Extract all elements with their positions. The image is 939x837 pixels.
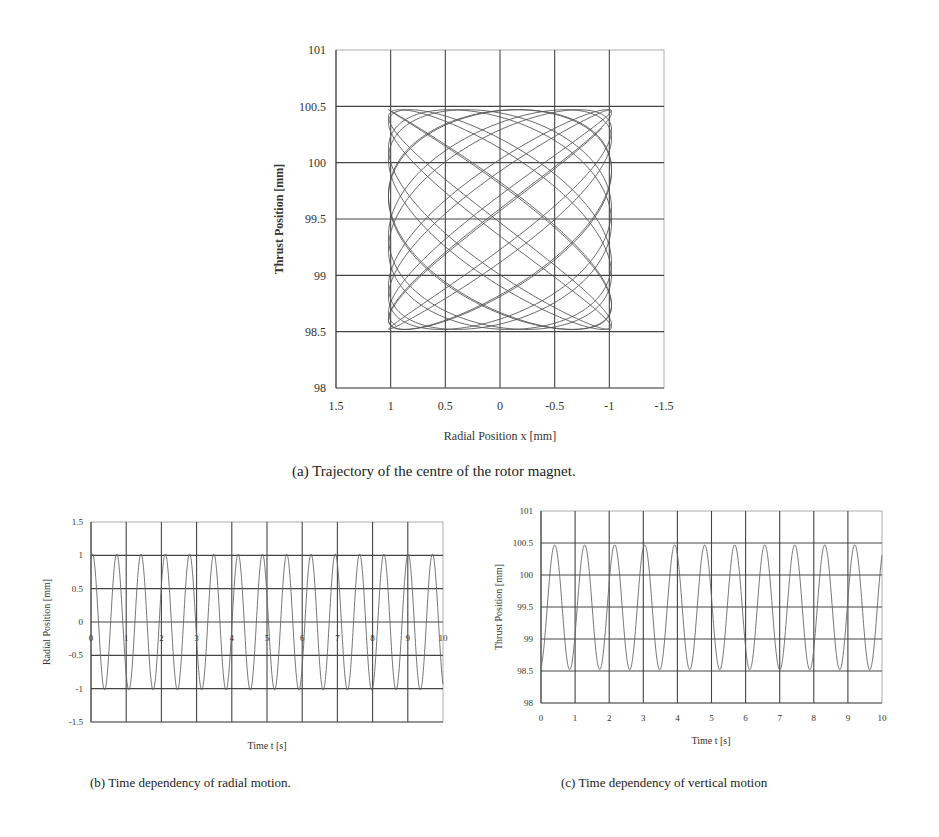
y-axis-label: Radial Position [mm]	[41, 579, 52, 665]
x-tick-label: 7	[777, 713, 782, 723]
x-tick-label: -1.5	[655, 399, 674, 413]
y-tick-label: 99.5	[517, 602, 533, 612]
y-tick-label: 101	[308, 43, 326, 57]
y-tick-label: -1.5	[69, 717, 84, 727]
grid-lines	[336, 50, 664, 388]
x-tick-label: 4	[230, 633, 235, 643]
x-tick-label: -0.5	[545, 399, 564, 413]
x-tick-label: 6	[743, 713, 748, 723]
x-tick-label: 5	[709, 713, 714, 723]
y-axis-label: Thrust Position [mm]	[272, 164, 286, 275]
grid-lines	[91, 522, 443, 722]
x-tick-label: 0	[497, 399, 503, 413]
x-tick-label: 3	[641, 713, 646, 723]
y-tick-label: 0.5	[72, 584, 84, 594]
x-tick-label: 1	[573, 713, 578, 723]
x-tick-label: 9	[846, 713, 851, 723]
caption-a: (a) Trajectory of the centre of the roto…	[292, 463, 576, 480]
x-tick-label: 10	[439, 633, 449, 643]
y-tick-label: 98	[314, 381, 326, 395]
x-tick-label: 8	[370, 633, 375, 643]
plot-area	[541, 511, 882, 703]
axis-ticks: 012345678910101100.510099.59998.598	[513, 506, 887, 723]
plot-area	[91, 522, 443, 722]
y-tick-label: 100	[520, 570, 534, 580]
y-tick-label: 1.5	[72, 517, 84, 527]
x-tick-label: 7	[335, 633, 340, 643]
x-tick-label: 9	[406, 633, 411, 643]
radial-position-line	[91, 554, 443, 690]
x-tick-label: 10	[878, 713, 888, 723]
y-tick-label: 100	[308, 156, 326, 170]
x-tick-label: 2	[159, 633, 164, 643]
x-tick-label: 6	[300, 633, 305, 643]
x-tick-label: 0.5	[438, 399, 453, 413]
x-tick-label: -1	[604, 399, 614, 413]
x-tick-label: 0	[89, 633, 94, 643]
caption-c: (c) Time dependency of vertical motion	[561, 775, 767, 791]
y-tick-label: 99.5	[305, 212, 326, 226]
x-tick-label: 3	[194, 633, 199, 643]
y-tick-label: 100.5	[299, 100, 326, 114]
x-axis-label: Radial Position x [mm]	[444, 429, 556, 443]
thrust-position-line	[541, 545, 882, 670]
x-tick-label: 5	[265, 633, 270, 643]
y-tick-label: 100.5	[513, 538, 534, 548]
y-tick-label: 98.5	[517, 666, 533, 676]
y-tick-label: 99	[524, 634, 534, 644]
x-tick-label: 1	[388, 399, 394, 413]
caption-b: (b) Time dependency of radial motion.	[90, 775, 291, 791]
trajectory-chart: 1.510.50-0.5-1-1.5101100.510099.59998.59…	[0, 0, 939, 500]
x-tick-label: 4	[675, 713, 680, 723]
x-tick-label: 0	[539, 713, 544, 723]
x-tick-label: 1.5	[329, 399, 344, 413]
x-axis-label: Time t [s]	[691, 735, 730, 746]
x-tick-label: 8	[812, 713, 817, 723]
y-tick-label: 1	[79, 550, 84, 560]
y-tick-label: 101	[520, 506, 534, 516]
y-tick-label: 99	[314, 269, 326, 283]
figure-a-trajectory: 1.510.50-0.5-1-1.5101100.510099.59998.59…	[0, 0, 939, 500]
y-tick-label: -0.5	[69, 650, 84, 660]
y-axis-label: Thrust Position [mm]	[493, 564, 504, 650]
grid-lines	[541, 511, 882, 703]
y-tick-label: -1	[76, 684, 84, 694]
y-tick-label: 98	[524, 698, 534, 708]
x-tick-label: 2	[607, 713, 612, 723]
axis-ticks: 0123456789101.510.50-0.5-1-1.5	[69, 517, 448, 727]
x-tick-label: 1	[124, 633, 129, 643]
y-tick-label: 0	[79, 617, 84, 627]
x-axis-label: Time t [s]	[247, 740, 286, 751]
y-tick-label: 98.5	[305, 325, 326, 339]
